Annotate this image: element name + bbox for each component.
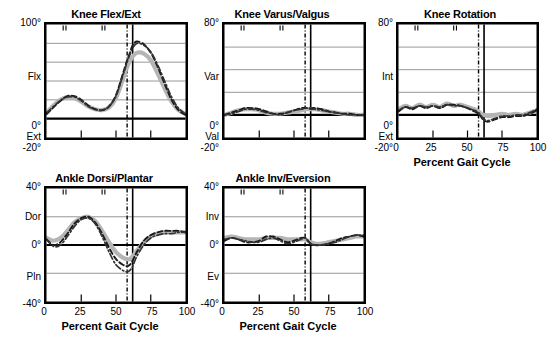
panel-title-knee-flex-ext: Knee Flex/Ext bbox=[22, 8, 190, 20]
xtick-knee-rotation-75: 75 bbox=[493, 143, 513, 153]
plot-ankle-dorsi-plantar bbox=[44, 186, 188, 304]
plot-knee-flex-ext bbox=[44, 22, 188, 140]
xtick-knee-rotation-50: 50 bbox=[457, 143, 477, 153]
xtick-ankle-dorsi-plantar-0: 0 bbox=[34, 307, 54, 317]
ylabel-knee-flex-ext-pos: Flx bbox=[0, 72, 41, 82]
xtick-knee-rotation-100: 100 bbox=[527, 143, 549, 153]
ytick-knee-flex-ext-max: 100° bbox=[0, 18, 41, 28]
plot-svg-knee-varus-valgus bbox=[222, 22, 366, 140]
plot-knee-varus-valgus bbox=[222, 22, 366, 140]
xtick-ankle-inv-eversion-75: 75 bbox=[320, 307, 340, 317]
panel-title-ankle-inv-eversion: Ankle Inv/Eversion bbox=[198, 172, 368, 184]
panel-knee-flex-ext: Knee Flex/Ext 100° Flx 0° Ext -20° bbox=[0, 8, 192, 168]
panel-knee-varus-valgus: Knee Varus/Valgus 80° Var 0° Val -20° bbox=[178, 8, 370, 168]
panel-knee-rotation: Knee Rotation 80° Int 0° Ext -20° 0 25 5… bbox=[352, 8, 543, 198]
plot-knee-rotation bbox=[396, 22, 539, 140]
ytick-knee-rotation-zero: 0° bbox=[352, 121, 393, 131]
xtick-knee-rotation-25: 25 bbox=[421, 143, 441, 153]
xaxis-title-knee-rotation: Percent Gait Cycle bbox=[382, 156, 542, 168]
xtick-ankle-dorsi-plantar-25: 25 bbox=[70, 307, 90, 317]
xaxis-title-ankle-dorsi-plantar: Percent Gait Cycle bbox=[30, 320, 190, 332]
ylabel-ankle-dorsi-plantar-neg: Pln bbox=[0, 272, 41, 282]
ylabel-ankle-dorsi-plantar-pos: Dor bbox=[0, 212, 41, 222]
xtick-ankle-inv-eversion-100: 100 bbox=[354, 307, 376, 317]
ytick-knee-varus-valgus-zero: 0° bbox=[178, 121, 219, 131]
ytick-knee-varus-valgus-min: -20° bbox=[178, 143, 219, 153]
ylabel-knee-rotation-neg: Ext bbox=[352, 132, 393, 142]
panel-title-knee-rotation: Knee Rotation bbox=[380, 8, 540, 20]
xtick-ankle-dorsi-plantar-75: 75 bbox=[142, 307, 162, 317]
ytick-knee-flex-ext-zero: 0° bbox=[0, 121, 41, 131]
ytick-ankle-dorsi-plantar-max: 40° bbox=[0, 182, 41, 192]
xtick-ankle-inv-eversion-0: 0 bbox=[212, 307, 232, 317]
ylabel-ankle-inv-eversion-neg: Ev bbox=[178, 272, 219, 282]
plot-svg-knee-rotation bbox=[396, 22, 539, 140]
xtick-ankle-inv-eversion-50: 50 bbox=[284, 307, 304, 317]
ytick-knee-rotation-max: 80° bbox=[352, 18, 393, 28]
panel-ankle-dorsi-plantar: Ankle Dorsi/Plantar 40° Dor 0° Pln -40° … bbox=[0, 172, 192, 350]
ylabel-knee-varus-valgus-pos: Var bbox=[178, 72, 219, 82]
ylabel-knee-rotation-pos: Int bbox=[352, 72, 393, 82]
ylabel-knee-varus-valgus-neg: Val bbox=[178, 132, 219, 142]
panel-title-ankle-dorsi-plantar: Ankle Dorsi/Plantar bbox=[18, 172, 190, 184]
plot-svg-ankle-inv-eversion bbox=[222, 186, 366, 304]
plot-ankle-inv-eversion bbox=[222, 186, 366, 304]
ytick-ankle-inv-eversion-max: 40° bbox=[178, 182, 219, 192]
xaxis-title-ankle-inv-eversion: Percent Gait Cycle bbox=[208, 320, 368, 332]
ytick-knee-varus-valgus-max: 80° bbox=[178, 18, 219, 28]
ylabel-ankle-inv-eversion-pos: Inv bbox=[178, 212, 219, 222]
plot-svg-ankle-dorsi-plantar bbox=[44, 186, 188, 304]
ytick-ankle-inv-eversion-zero: 0° bbox=[178, 240, 219, 250]
xtick-knee-rotation-0: 0 bbox=[386, 143, 406, 153]
panel-title-knee-varus-valgus: Knee Varus/Valgus bbox=[196, 8, 368, 20]
xtick-ankle-dorsi-plantar-50: 50 bbox=[106, 307, 126, 317]
panel-ankle-inv-eversion: Ankle Inv/Eversion 40° Inv 0° Ev -40° 0 … bbox=[178, 172, 370, 350]
xtick-ankle-inv-eversion-25: 25 bbox=[248, 307, 268, 317]
ytick-knee-flex-ext-min: -20° bbox=[0, 143, 41, 153]
ytick-ankle-dorsi-plantar-zero: 0° bbox=[0, 240, 41, 250]
ylabel-knee-flex-ext-neg: Ext bbox=[0, 132, 41, 142]
plot-svg-knee-flex-ext bbox=[44, 22, 188, 140]
